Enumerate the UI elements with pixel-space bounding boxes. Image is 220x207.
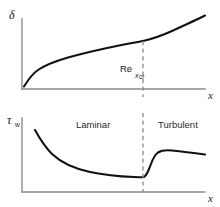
boundary-layer-thickness-curve [24, 16, 205, 87]
bottom-plot-group: τ w x Laminar Turbulent [7, 113, 213, 204]
critical-reynolds-subscript-cr: cr [139, 73, 145, 80]
wall-shear-stress-curve [35, 130, 205, 177]
top-plot-group: δ x Re x cr [9, 8, 213, 101]
top-plot-x-axis-label: x [207, 89, 213, 101]
bottom-plot-x-axis-label: x [207, 192, 213, 204]
region-label-turbulent: Turbulent [158, 119, 198, 130]
boundary-layer-figure: δ x Re x cr τ w x Laminar Turbu [0, 0, 220, 207]
region-label-laminar: Laminar [76, 119, 110, 130]
top-plot-y-axis-label: δ [9, 8, 15, 22]
critical-reynolds-label: Re [120, 63, 132, 74]
bottom-plot-y-axis-label-subscript: w [14, 121, 20, 128]
bottom-plot-y-axis-label: τ [7, 113, 12, 127]
